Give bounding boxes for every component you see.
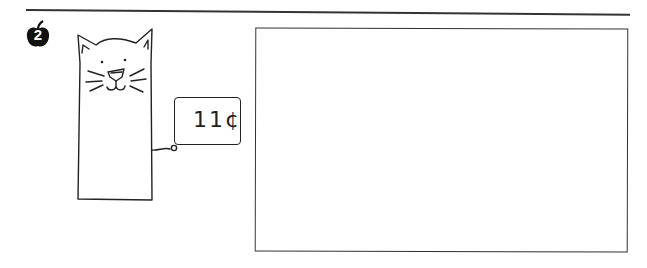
problem-number-label: 2 xyxy=(26,25,50,45)
answer-box[interactable] xyxy=(255,28,629,253)
price-tag: 11¢ xyxy=(174,97,241,145)
top-divider-line xyxy=(26,9,630,16)
price-tag-label: 11¢ xyxy=(193,107,241,132)
cat-puppet-illustration xyxy=(70,25,180,205)
